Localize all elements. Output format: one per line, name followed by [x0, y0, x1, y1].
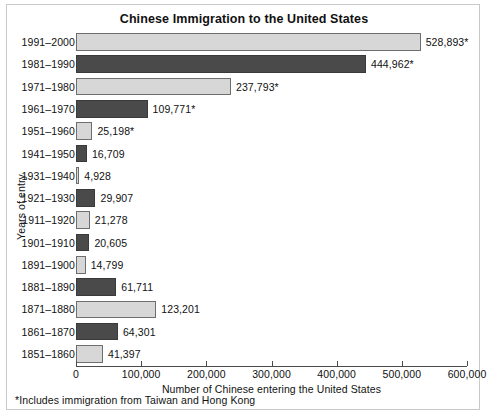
- category-label: 1951–1960: [22, 125, 75, 137]
- bar-value-label: 4,928: [84, 170, 111, 182]
- x-tick-label: 500,000: [383, 368, 422, 380]
- bar-value-label: 64,301: [123, 326, 156, 338]
- bar[interactable]: [76, 301, 156, 319]
- bar[interactable]: [76, 345, 103, 363]
- bar-value-label: 29,907: [100, 192, 133, 204]
- x-tick-mark: [337, 361, 338, 366]
- bar[interactable]: [76, 55, 366, 73]
- category-label: 1861–1870: [22, 326, 75, 338]
- x-tick-mark: [76, 361, 77, 366]
- x-tick-label: 100,000: [122, 368, 161, 380]
- bar-value-label: 41,397: [108, 348, 141, 360]
- category-label: 1991–2000: [22, 36, 75, 48]
- x-tick-mark: [272, 361, 273, 366]
- category-label: 1971–1980: [22, 81, 75, 93]
- bar[interactable]: [76, 278, 116, 296]
- bar[interactable]: [76, 234, 89, 252]
- bar-row: 1971–1980237,793*: [7, 76, 481, 98]
- chart-figure: Chinese Immigration to the United States…: [6, 4, 480, 410]
- category-label: 1961–1970: [22, 103, 75, 115]
- bar-row: 1981–1990444,962*: [7, 53, 481, 75]
- bar[interactable]: [76, 78, 231, 96]
- x-tick-mark: [467, 361, 468, 366]
- bar[interactable]: [76, 122, 92, 140]
- x-axis-line: [76, 366, 467, 367]
- category-label: 1851–1860: [22, 348, 75, 360]
- x-tick-mark: [402, 361, 403, 366]
- chart-footnote: *Includes immigration from Taiwan and Ho…: [15, 394, 255, 406]
- bar-row: 1961–1970109,771*: [7, 98, 481, 120]
- bar-value-label: 16,709: [92, 148, 125, 160]
- bar[interactable]: [76, 189, 95, 207]
- bar-row: 1891–190014,799: [7, 254, 481, 276]
- bar-row: 1911–192021,278: [7, 209, 481, 231]
- bar-value-label: 61,711: [121, 281, 153, 293]
- plot-area: 1991–2000528,893*1981–1990444,962*1971–1…: [7, 5, 481, 411]
- category-label: 1871–1880: [22, 303, 75, 315]
- bar-row: 1851–186041,397: [7, 343, 481, 365]
- x-tick-label: 200,000: [187, 368, 226, 380]
- bar-value-label: 123,201: [161, 303, 200, 315]
- bar-value-label: 20,605: [94, 237, 127, 249]
- x-tick-label: 600,000: [448, 368, 487, 380]
- category-label: 1941–1950: [22, 148, 75, 160]
- bar[interactable]: [76, 145, 87, 163]
- x-tick-mark: [141, 361, 142, 366]
- bar[interactable]: [76, 256, 86, 274]
- category-label: 1881–1890: [22, 281, 75, 293]
- bar-value-label: 109,771*: [153, 103, 196, 115]
- bar-value-label: 25,198*: [97, 125, 134, 137]
- bar[interactable]: [76, 211, 90, 229]
- category-label: 1981–1990: [22, 58, 75, 70]
- bar-value-label: 528,893*: [426, 36, 469, 48]
- x-tick-label: 400,000: [317, 368, 356, 380]
- bar[interactable]: [76, 167, 79, 185]
- bar-row: 1931–19404,928: [7, 165, 481, 187]
- category-label: 1921–1930: [22, 192, 75, 204]
- bar-row: 1901–191020,605: [7, 232, 481, 254]
- category-label: 1931–1940: [22, 170, 75, 182]
- bar-row: 1951–196025,198*: [7, 120, 481, 142]
- bar-row: 1861–187064,301: [7, 321, 481, 343]
- bar-value-label: 237,793*: [236, 81, 279, 93]
- bar[interactable]: [76, 100, 148, 118]
- bar[interactable]: [76, 33, 421, 51]
- bar[interactable]: [76, 323, 118, 341]
- bar-row: 1881–189061,711: [7, 276, 481, 298]
- bar-value-label: 14,799: [91, 259, 124, 271]
- bar-row: 1871–1880123,201: [7, 298, 481, 320]
- bar-row: 1941–195016,709: [7, 142, 481, 164]
- x-tick-label: 300,000: [252, 368, 291, 380]
- bar-value-label: 444,962*: [371, 58, 414, 70]
- bar-row: 1991–2000528,893*: [7, 31, 481, 53]
- x-tick-mark: [206, 361, 207, 366]
- x-tick-label: 0: [73, 368, 79, 380]
- category-label: 1911–1920: [22, 214, 75, 226]
- category-label: 1901–1910: [22, 237, 75, 249]
- bar-row: 1921–193029,907: [7, 187, 481, 209]
- category-label: 1891–1900: [22, 259, 75, 271]
- y-axis-title: Years of entry: [15, 162, 27, 252]
- bar-value-label: 21,278: [95, 214, 128, 226]
